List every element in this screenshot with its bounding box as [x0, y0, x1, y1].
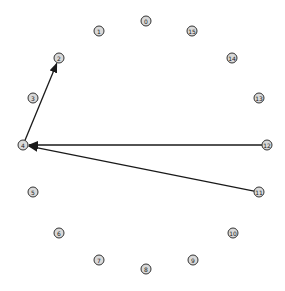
node-4[interactable]: 4 — [18, 140, 28, 150]
node-2[interactable]: 2 — [54, 53, 64, 63]
node-14[interactable]: 14 — [227, 53, 237, 63]
node-label: 4 — [21, 142, 25, 149]
edge-11-to-4 — [29, 146, 254, 191]
node-5[interactable]: 5 — [28, 187, 38, 197]
edge-line — [29, 146, 254, 191]
node-label: 10 — [229, 230, 237, 237]
node-7[interactable]: 7 — [94, 255, 104, 265]
node-3[interactable]: 3 — [28, 93, 38, 103]
node-label: 13 — [255, 95, 263, 102]
node-10[interactable]: 10 — [228, 228, 238, 238]
node-8[interactable]: 8 — [141, 264, 151, 274]
node-label: 11 — [255, 189, 263, 196]
node-label: 1 — [97, 28, 101, 35]
node-label: 8 — [144, 266, 148, 273]
node-label: 7 — [97, 257, 101, 264]
node-label: 15 — [188, 28, 196, 35]
node-0[interactable]: 0 — [141, 16, 151, 26]
node-12[interactable]: 12 — [262, 140, 272, 150]
node-label: 12 — [263, 142, 271, 149]
node-9[interactable]: 9 — [188, 255, 198, 265]
node-label: 5 — [31, 189, 35, 196]
node-15[interactable]: 15 — [187, 26, 197, 36]
node-label: 0 — [144, 18, 148, 25]
node-1[interactable]: 1 — [94, 26, 104, 36]
node-label: 2 — [57, 55, 61, 62]
node-label: 3 — [31, 95, 35, 102]
node-13[interactable]: 13 — [254, 93, 264, 103]
edges-layer — [25, 64, 262, 191]
node-label: 14 — [228, 55, 236, 62]
node-label: 6 — [57, 230, 61, 237]
node-label: 9 — [191, 257, 195, 264]
graph-canvas: 0123456789101112131415 — [0, 0, 285, 291]
node-6[interactable]: 6 — [54, 228, 64, 238]
node-11[interactable]: 11 — [254, 187, 264, 197]
